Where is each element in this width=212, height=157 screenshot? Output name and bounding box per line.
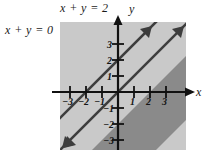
y-axis-label: y — [129, 3, 134, 15]
y-tick-label-2: 1 — [107, 72, 112, 82]
y-tick-label-4: −2 — [103, 120, 114, 130]
y-axis-arrowhead — [114, 15, 123, 25]
x-tick-label-5: 3 — [162, 97, 167, 107]
x-tick-label-4: 2 — [146, 97, 151, 107]
y-tick-label-5: −3 — [103, 136, 114, 146]
equation-label-upper-line: x + y = 2 — [60, 2, 108, 14]
x-tick-label-0: −3 — [62, 97, 73, 107]
math-graph-figure: x + y = 2 x + y = 0 y x −3−2−1123 321−1−… — [0, 0, 212, 157]
y-tick-label-3: −1 — [103, 104, 114, 114]
x-axis-label: x — [196, 86, 201, 98]
y-tick-label-0: 3 — [107, 40, 112, 50]
x-tick-label-1: −2 — [78, 97, 89, 107]
x-axis-arrowhead — [185, 88, 195, 97]
x-tick-label-3: 1 — [130, 97, 135, 107]
equation-label-lower-line: x + y = 0 — [5, 24, 53, 36]
y-tick-label-1: 2 — [107, 56, 112, 66]
